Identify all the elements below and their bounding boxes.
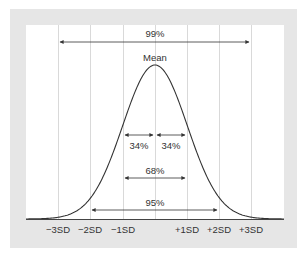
tick-label-minus2sd: −2SD: [78, 224, 102, 235]
normal-distribution-diagram: 99% Mean 34% 34% 68% 95% −3SD −2SD −1SD …: [0, 0, 307, 259]
tick-label-plus1sd: +1SD: [175, 224, 199, 235]
range-label-34-right: 34%: [161, 140, 181, 151]
range-label-95: 95%: [145, 197, 165, 208]
range-label-68: 68%: [145, 165, 165, 176]
tick-label-plus2sd: +2SD: [207, 224, 231, 235]
tick-label-minus3sd: −3SD: [46, 224, 70, 235]
mean-label: Mean: [143, 52, 167, 63]
tick-label-minus1sd: −1SD: [111, 224, 135, 235]
tick-label-plus3sd: +3SD: [239, 224, 263, 235]
range-label-34-left: 34%: [129, 140, 149, 151]
range-label-99: 99%: [145, 28, 165, 39]
